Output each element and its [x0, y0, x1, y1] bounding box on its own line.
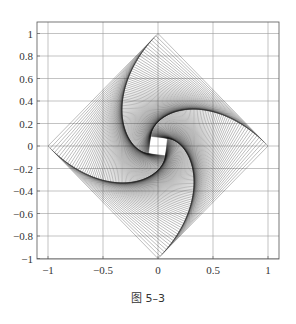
y-tick-label: −0.2: [13, 163, 33, 175]
figure: −1−0.500.51 10.80.60.40.20−0.2−0.4−0.6−0…: [0, 0, 296, 324]
spiral-squares-plot: −1−0.500.51 10.80.60.40.20−0.2−0.4−0.6−0…: [0, 0, 296, 324]
y-tick-label: −1: [21, 253, 33, 265]
x-tick-label: 1: [265, 264, 271, 276]
figure-caption: 图 5–3: [0, 289, 296, 305]
y-axis-ticks: 10.80.60.40.20−0.2−0.4−0.6−0.8−1: [13, 28, 40, 265]
y-tick-label: −0.8: [13, 230, 33, 242]
x-tick-label: −1: [42, 264, 54, 276]
grid-lines: [37, 22, 279, 259]
y-tick-label: −0.4: [13, 185, 33, 197]
x-tick-label: 0: [155, 264, 161, 276]
y-tick-label: 1: [28, 28, 34, 40]
y-tick-label: −0.6: [13, 208, 33, 220]
y-tick-label: 0.2: [19, 118, 33, 130]
y-tick-label: 0.8: [19, 50, 33, 62]
x-tick-label: −0.5: [93, 264, 113, 276]
y-tick-label: 0.6: [19, 73, 33, 85]
y-tick-label: 0: [28, 140, 34, 152]
x-tick-label: 0.5: [206, 264, 220, 276]
y-tick-label: 0.4: [19, 95, 33, 107]
